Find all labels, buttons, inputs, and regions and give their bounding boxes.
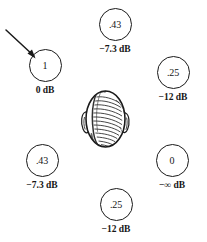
speaker-circle-left-lower: .43: [26, 144, 59, 177]
gain-value-bottom: .25: [101, 200, 132, 210]
speaker-circle-top: .43: [99, 8, 132, 41]
db-label-right-lower: −∞ dB: [149, 180, 195, 191]
gain-value-left-upper: 1: [30, 61, 61, 71]
speaker-circle-left-upper: 1: [29, 49, 62, 82]
speaker-node-left-lower: .43 −7.3 dB: [19, 144, 65, 191]
speaker-node-right-lower: 0 −∞ dB: [149, 144, 195, 191]
speaker-node-bottom: .25 −12 dB: [93, 188, 139, 235]
speaker-circle-right-upper: .25: [157, 56, 190, 89]
gain-value-top: .43: [100, 20, 131, 30]
db-label-left-lower: −7.3 dB: [19, 180, 65, 191]
db-label-bottom: −12 dB: [93, 224, 139, 235]
gain-value-right-lower: 0: [157, 156, 188, 166]
head-top-view-icon: [78, 82, 132, 154]
gain-value-left-lower: .43: [27, 156, 58, 166]
db-label-top: −7.3 dB: [92, 44, 138, 55]
speaker-node-right-upper: .25 −12 dB: [150, 56, 196, 103]
db-label-left-upper: 0 dB: [22, 85, 68, 96]
speaker-node-top: .43 −7.3 dB: [92, 8, 138, 55]
speaker-circle-right-lower: 0: [156, 144, 189, 177]
speaker-circle-bottom: .25: [100, 188, 133, 221]
gain-value-right-upper: .25: [158, 68, 189, 78]
db-label-right-upper: −12 dB: [150, 92, 196, 103]
speaker-gain-diagram: .43 −7.3 dB 1 0 dB .25 −12 dB .43 −7.3 d…: [0, 0, 207, 242]
speaker-node-left-upper: 1 0 dB: [22, 49, 68, 96]
